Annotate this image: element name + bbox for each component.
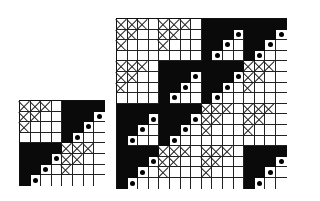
black-cell xyxy=(244,19,255,30)
white-cell xyxy=(52,133,63,144)
white-cell xyxy=(181,51,192,62)
black-cell xyxy=(244,167,255,178)
black-cell xyxy=(202,30,213,41)
white-cell xyxy=(84,175,95,186)
white-cell xyxy=(276,167,287,178)
white-cell xyxy=(234,178,245,189)
white-cell xyxy=(94,175,105,186)
dot-cell xyxy=(170,136,181,147)
crossed-cell xyxy=(202,125,213,136)
black-cell xyxy=(138,146,149,157)
crossed-cell xyxy=(212,157,223,168)
crossed-cell xyxy=(20,122,31,133)
white-cell xyxy=(234,40,245,51)
crossed-cell xyxy=(181,19,192,30)
crossed-cell xyxy=(202,167,213,178)
white-cell xyxy=(191,19,202,30)
white-cell xyxy=(41,122,52,133)
black-cell xyxy=(117,167,128,178)
white-cell xyxy=(265,83,276,94)
black-cell xyxy=(223,19,234,30)
dot-icon xyxy=(279,159,284,164)
white-cell xyxy=(276,114,287,125)
dot-cell xyxy=(138,167,149,178)
white-cell xyxy=(138,178,149,189)
black-cell xyxy=(159,125,170,136)
black-cell xyxy=(73,122,84,133)
crossed-cell xyxy=(128,30,139,41)
dot-icon xyxy=(193,74,198,79)
black-cell xyxy=(255,30,266,41)
black-cell xyxy=(117,104,128,115)
crossed-cell xyxy=(41,101,52,112)
black-cell xyxy=(223,61,234,72)
white-cell xyxy=(31,122,42,133)
black-cell xyxy=(84,112,95,123)
white-cell xyxy=(223,136,234,147)
dot-cell xyxy=(84,122,95,133)
crossed-cell xyxy=(170,30,181,41)
crossed-cell xyxy=(244,125,255,136)
white-cell xyxy=(234,93,245,104)
white-cell xyxy=(117,93,128,104)
dot-icon xyxy=(268,170,273,175)
black-cell xyxy=(202,51,213,62)
white-cell xyxy=(149,61,160,72)
dot-cell xyxy=(170,93,181,104)
black-cell xyxy=(170,61,181,72)
dot-icon xyxy=(236,32,241,37)
white-cell xyxy=(223,93,234,104)
dot-cell xyxy=(265,40,276,51)
black-cell xyxy=(128,167,139,178)
white-cell xyxy=(170,178,181,189)
white-cell xyxy=(191,136,202,147)
white-cell xyxy=(94,154,105,165)
crossed-cell xyxy=(170,157,181,168)
white-cell xyxy=(276,93,287,104)
white-cell xyxy=(191,40,202,51)
white-cell xyxy=(181,157,192,168)
black-cell xyxy=(212,72,223,83)
black-cell xyxy=(128,157,139,168)
crossed-cell xyxy=(255,72,266,83)
white-cell xyxy=(265,178,276,189)
black-cell xyxy=(255,167,266,178)
dot-cell xyxy=(234,30,245,41)
white-cell xyxy=(223,125,234,136)
dot-cell xyxy=(223,40,234,51)
black-cell xyxy=(94,101,105,112)
white-cell xyxy=(234,167,245,178)
black-cell xyxy=(128,104,139,115)
white-cell xyxy=(255,136,266,147)
white-cell xyxy=(212,125,223,136)
crossed-cell xyxy=(265,104,276,115)
black-cell xyxy=(62,112,73,123)
white-cell xyxy=(265,93,276,104)
white-cell xyxy=(181,136,192,147)
black-cell xyxy=(117,157,128,168)
white-cell xyxy=(138,30,149,41)
black-cell xyxy=(244,30,255,41)
crossed-cell xyxy=(73,154,84,165)
black-cell xyxy=(31,143,42,154)
white-cell xyxy=(191,178,202,189)
white-cell xyxy=(84,165,95,176)
crossed-cell xyxy=(117,72,128,83)
white-cell xyxy=(73,175,84,186)
dot-cell xyxy=(276,157,287,168)
crossed-cell xyxy=(159,167,170,178)
white-cell xyxy=(138,93,149,104)
dot-cell xyxy=(181,125,192,136)
dot-icon xyxy=(140,127,145,132)
white-cell xyxy=(138,51,149,62)
black-cell xyxy=(255,19,266,30)
black-cell xyxy=(159,83,170,94)
dot-icon xyxy=(86,124,91,129)
black-cell xyxy=(117,114,128,125)
white-cell xyxy=(276,83,287,94)
white-cell xyxy=(255,83,266,94)
dot-cell xyxy=(265,167,276,178)
dot-cell xyxy=(212,51,223,62)
dot-icon xyxy=(236,74,241,79)
crossed-cell xyxy=(128,72,139,83)
